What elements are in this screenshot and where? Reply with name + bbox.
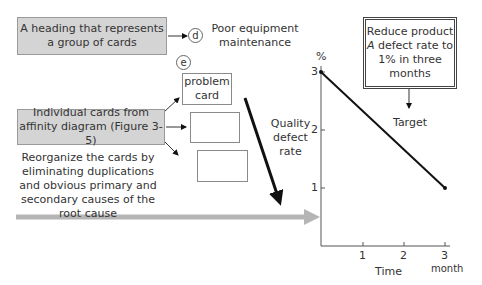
x-axis-unit: month xyxy=(431,263,463,274)
y-tick-3: 3 xyxy=(311,65,318,78)
x-axis-label: Time xyxy=(375,265,402,278)
y-tick-2: 2 xyxy=(311,123,318,136)
quality-defect-rate-label: Quality defect rate xyxy=(268,117,313,159)
marker-e: e xyxy=(176,55,191,70)
target-label: Target xyxy=(388,116,432,130)
x-tick-2: 2 xyxy=(400,249,407,262)
individual-cards-text: Individual cards from affinity diagram (… xyxy=(18,106,164,148)
heading-card-text: A heading that represents a group of car… xyxy=(18,22,166,50)
problem-card-text: problem card xyxy=(183,75,231,103)
y-axis-unit: % xyxy=(316,50,326,63)
x-tick-1: 1 xyxy=(359,249,366,262)
y-tick-1: 1 xyxy=(311,181,318,194)
individual-cards-box: Individual cards from affinity diagram (… xyxy=(17,109,165,145)
arrow-to-card-3 xyxy=(164,141,178,155)
problem-card: problem card xyxy=(182,73,232,105)
x-tick-3: 3 xyxy=(441,249,448,262)
defect-rate-line xyxy=(321,72,445,188)
empty-card-3 xyxy=(197,150,248,182)
poor-maintenance-label: Poor equipment maintenance xyxy=(205,22,305,50)
target-box: Reduce product A defect rate to 1% in th… xyxy=(363,17,457,89)
reorganize-note: Reorganize the cards by eliminating dupl… xyxy=(12,151,164,221)
empty-card-2 xyxy=(190,112,240,143)
marker-d: d xyxy=(188,28,203,43)
arrow-to-problem-card xyxy=(164,98,179,112)
heading-card: A heading that represents a group of car… xyxy=(17,17,167,55)
target-box-text: Reduce product A defect rate to 1% in th… xyxy=(366,25,454,81)
